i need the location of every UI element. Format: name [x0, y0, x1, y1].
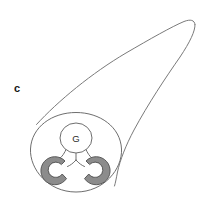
tube-lower-edge-line — [115, 25, 196, 187]
right-ring-lumen — [89, 162, 103, 177]
figure-panel-c: G c — [0, 0, 204, 199]
gland-lumen-label: G — [72, 133, 79, 144]
left-ring-lumen — [48, 162, 62, 177]
anatomical-cross-section-diagram: G c — [0, 0, 204, 199]
panel-label: c — [14, 82, 20, 94]
tube-upper-edge-line — [37, 20, 196, 124]
